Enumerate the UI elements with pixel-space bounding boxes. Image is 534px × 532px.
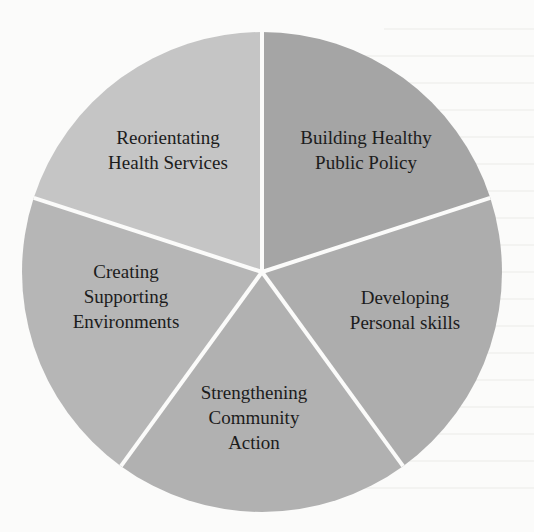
slice-label-line: Environments — [73, 309, 180, 334]
slice-label-line: Creating — [73, 259, 180, 284]
slice-label-line: Personal skills — [350, 310, 460, 335]
slice-label-strengthening-community-action: StrengtheningCommunityAction — [201, 380, 308, 455]
slice-label-line: Health Services — [108, 150, 228, 175]
slice-label-line: Developing — [350, 285, 460, 310]
slice-label-line: Public Policy — [300, 150, 431, 175]
slice-label-line: Building Healthy — [300, 125, 431, 150]
slice-label-creating-supporting-environments: CreatingSupportingEnvironments — [73, 259, 180, 334]
slice-label-line: Strengthening — [201, 380, 308, 405]
slice-label-line: Reorientating — [108, 125, 228, 150]
slice-label-reorientating-health-services: ReorientatingHealth Services — [108, 125, 228, 175]
slice-label-developing-personal-skills: DevelopingPersonal skills — [350, 285, 460, 335]
slice-label-line: Action — [201, 430, 308, 455]
slice-label-building-healthy-public-policy: Building HealthyPublic Policy — [300, 125, 431, 175]
slice-label-line: Community — [201, 405, 308, 430]
slice-label-line: Supporting — [73, 284, 180, 309]
